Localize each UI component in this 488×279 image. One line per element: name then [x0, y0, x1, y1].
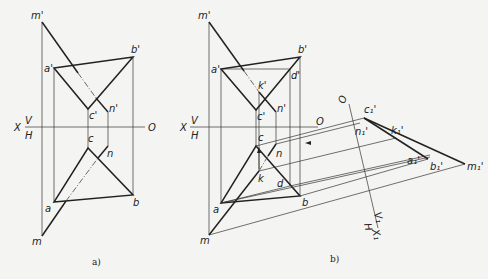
- label-b-v: V: [191, 115, 199, 126]
- line-mn-h-b-hidden: [259, 156, 268, 171]
- caption-a: a): [92, 257, 101, 267]
- projection-diagram: m' a' b' c' n' X V H O c n a b m a): [0, 0, 488, 279]
- label-m1: m₁': [467, 161, 484, 172]
- label-v: V: [25, 115, 33, 126]
- label-x: X: [13, 122, 22, 133]
- label-k1: k₁': [391, 125, 404, 136]
- label-b-n-prime: n': [277, 103, 286, 114]
- small-arrow-icon: [305, 141, 311, 145]
- label-c1: c₁': [364, 104, 376, 115]
- label-n: n: [107, 148, 113, 159]
- triangle-v-a: [54, 57, 133, 109]
- label-m: m: [32, 236, 42, 247]
- triangle-h-a: [54, 148, 133, 202]
- line-mn-v-b-hidden: [244, 71, 259, 92]
- label-b1: b₁': [430, 161, 443, 172]
- caption-b: b): [330, 254, 339, 264]
- label-v1: V₁: [372, 211, 385, 224]
- figure-b: m' a' b' d' k' c' n' X V H O c n k d a b…: [179, 10, 484, 264]
- label-b-k-prime: k': [258, 80, 267, 91]
- label-n1: n₁': [355, 126, 368, 137]
- label-c-prime: c': [89, 110, 97, 121]
- label-b-x: X: [179, 122, 188, 133]
- label-o1: O: [336, 94, 349, 104]
- label-b-a: a: [213, 204, 219, 215]
- label-b-c: c: [258, 132, 264, 143]
- label-b-a-prime: a': [211, 64, 220, 75]
- label-b-k: k: [258, 173, 265, 184]
- label-b-h: H: [191, 130, 199, 141]
- line-mn-v-a2: [96, 98, 108, 112]
- label-b-d-prime: d': [291, 70, 300, 81]
- label-h: H: [25, 130, 33, 141]
- label-a-prime: a': [44, 63, 53, 74]
- label-b-b-prime: b': [298, 44, 307, 55]
- label-a1: a₁': [407, 155, 420, 166]
- label-a: a: [45, 203, 51, 214]
- label-n-prime: n': [109, 103, 118, 114]
- line-mn-v-hidden: [78, 73, 96, 98]
- label-b: b: [133, 197, 139, 208]
- label-b-m-prime: m': [198, 10, 211, 21]
- label-b-b: b: [302, 197, 308, 208]
- label-b-prime: b': [131, 44, 140, 55]
- label-b-m: m: [200, 235, 210, 246]
- label-m-prime: m': [31, 10, 44, 21]
- aux-m: [209, 164, 465, 235]
- line-mn-h-hidden: [66, 158, 98, 201]
- line-mn-h-b2: [268, 144, 276, 156]
- label-b-o: O: [316, 116, 324, 127]
- label-b-d: d: [277, 178, 284, 189]
- label-o: O: [148, 122, 156, 133]
- figure-a: m' a' b' c' n' X V H O c n a b m a): [13, 10, 156, 267]
- label-x1: X₁: [370, 227, 383, 241]
- label-b-n: n: [276, 148, 282, 159]
- label-c: c: [88, 133, 94, 144]
- label-b-c-prime: c': [257, 111, 265, 122]
